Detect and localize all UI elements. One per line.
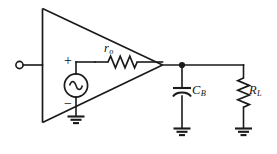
load-resistor-rl (238, 65, 250, 128)
circuit-diagram: ro CB RL + − (0, 0, 277, 154)
label-rl-symbol: R (249, 83, 257, 97)
ground-source (68, 117, 85, 124)
label-source-minus: − (64, 97, 72, 111)
label-rl-subscript: L (257, 89, 262, 98)
output-wire (163, 62, 244, 68)
label-cb-subscript: B (200, 89, 205, 98)
label-ro-subscript: o (109, 47, 114, 56)
bypass-capacitor-cb (173, 65, 191, 128)
output-resistor-ro (95, 56, 163, 68)
ground-capacitor (174, 129, 191, 136)
label-bypass-capacitor: CB (192, 84, 206, 99)
amplifier-triangle (43, 9, 163, 123)
ground-load (235, 129, 252, 136)
input-terminal[interactable] (16, 61, 43, 68)
label-load-resistor: RL (249, 84, 262, 99)
label-output-resistance: ro (104, 42, 113, 57)
label-source-plus: + (64, 54, 72, 68)
circuit-schematic-svg (0, 0, 277, 154)
